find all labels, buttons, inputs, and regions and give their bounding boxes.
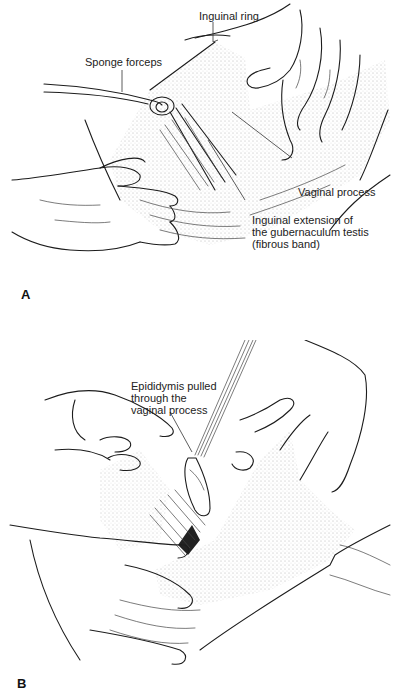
label-epididymis-line1: Epididymis pulled — [131, 380, 217, 392]
label-inguinal-extension-line1: Inguinal extension of — [252, 214, 353, 226]
label-inguinal-extension-line3: (fibrous band) — [252, 238, 320, 250]
panel-b-illustration: Epididymis pulled through the vaginal pr… — [0, 340, 394, 696]
panel-a-illustration: Inguinal ring Sponge forceps Vaginal pro… — [0, 0, 394, 330]
label-inguinal-ring: Inguinal ring — [199, 10, 259, 22]
label-epididymis-line2: through the — [131, 392, 187, 404]
label-inguinal-extension-line2: the gubernaculum testis — [252, 226, 369, 238]
label-epididymis-line3: vaginal process — [131, 404, 207, 416]
label-vaginal-process: Vaginal process — [298, 186, 375, 198]
label-sponge-forceps: Sponge forceps — [85, 56, 162, 68]
panel-letter-b: B — [17, 676, 26, 691]
panel-letter-a: A — [21, 287, 30, 302]
surgical-drawing-a — [0, 0, 394, 330]
surgical-drawing-b — [0, 340, 394, 696]
